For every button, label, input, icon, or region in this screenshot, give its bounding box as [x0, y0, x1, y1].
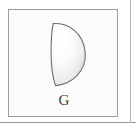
- illustration-panel: G: [8, 9, 118, 117]
- shape-label: G: [9, 92, 119, 109]
- figure-panel-g: G: [0, 0, 136, 132]
- half-ellipse-shape-icon: [50, 21, 88, 88]
- page-rule-bottom: [0, 122, 136, 123]
- page-rule-right: [130, 0, 131, 123]
- shape-area: [9, 10, 119, 90]
